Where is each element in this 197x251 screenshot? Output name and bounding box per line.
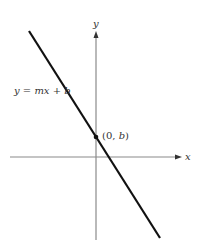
line-diagram: y x y = mx + b (0, b): [0, 0, 197, 251]
y-intercept-point: [94, 135, 99, 140]
line-equation-label: y = mx + b: [13, 85, 71, 96]
y-intercept-label: (0, b): [102, 130, 129, 141]
x-axis-arrow-icon: [175, 155, 182, 160]
x-axis-label: x: [185, 151, 191, 162]
line-plot: [29, 31, 160, 238]
y-axis-label: y: [92, 18, 99, 29]
y-axis-arrow-icon: [94, 31, 99, 38]
